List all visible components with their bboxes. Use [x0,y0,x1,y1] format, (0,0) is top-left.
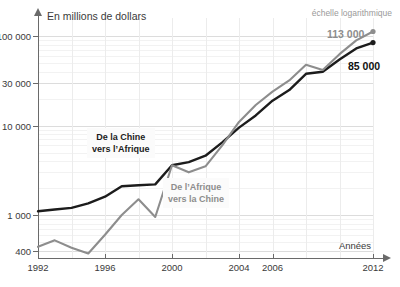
end-value-africa-to-china: 113 000 [327,28,364,40]
series-label-africa-to-china-line2: vers la Chine [168,193,224,205]
series-label-china-to-africa: De la Chine vers l’Afrique [87,128,155,158]
chart-figure: 4001 00010 00030 000100 000 199219962000… [0,0,400,287]
series-label-china-to-africa-line1: De la Chine [92,131,150,143]
series-label-africa-to-china-line1: De l’Afrique [168,181,224,193]
end-value-china-to-africa: 85 000 [348,60,380,72]
series-label-africa-to-china: De l’Afrique vers la Chine [163,178,229,208]
series-label-china-to-africa-line2: vers l’Afrique [92,143,150,155]
series-endpoint-marker [370,40,375,45]
series-layer [0,0,400,287]
series-endpoint-marker [370,29,375,34]
